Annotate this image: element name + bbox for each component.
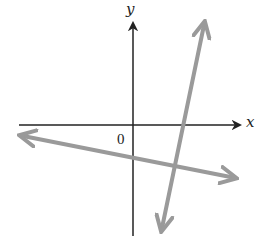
origin-label: 0 — [117, 132, 125, 147]
steep-line — [162, 25, 204, 228]
shallow-line — [23, 136, 233, 178]
y-axis-label: y — [126, 2, 134, 17]
x-axis-label: x — [246, 115, 254, 130]
coordinate-graph — [0, 0, 267, 240]
